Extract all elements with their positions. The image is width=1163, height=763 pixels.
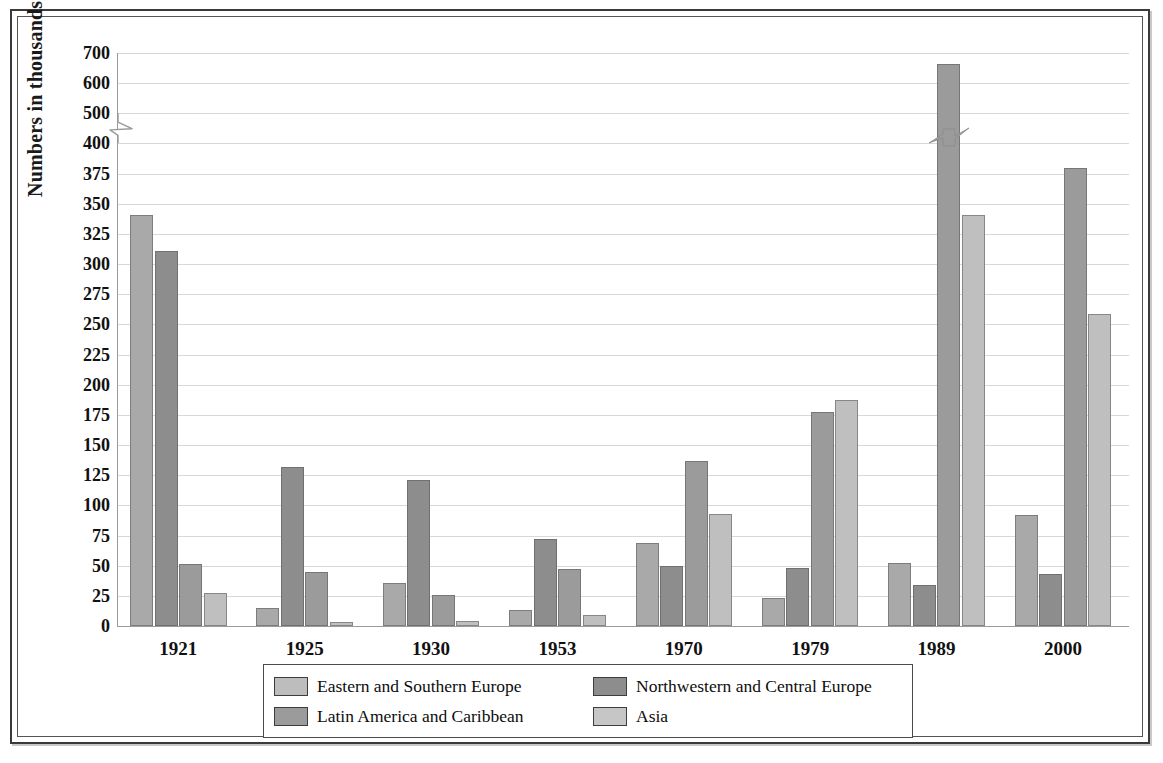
outer-frame: Numbers in thousands 0255075100125150175…	[10, 9, 1150, 744]
y-tick-label: 250	[50, 314, 110, 335]
bar	[558, 569, 581, 626]
y-tick-label: 100	[50, 495, 110, 516]
bar	[811, 412, 834, 626]
bar	[937, 64, 960, 626]
bar-group	[876, 53, 1002, 626]
y-tick-label: 150	[50, 435, 110, 456]
y-axis-label: Numbers in thousands	[24, 0, 47, 197]
y-tick-label: 125	[50, 465, 110, 486]
bar	[660, 566, 683, 626]
y-tick-label: 400	[50, 133, 110, 154]
bar	[583, 615, 606, 626]
inner-frame: Numbers in thousands 0255075100125150175…	[17, 16, 1143, 737]
legend-label: Northwestern and Central Europe	[636, 676, 872, 697]
y-tick-label: 375	[50, 163, 110, 184]
bar	[407, 480, 430, 626]
bar	[962, 215, 985, 626]
bar	[204, 593, 227, 626]
chart-page: Numbers in thousands 0255075100125150175…	[0, 0, 1163, 763]
bar-group	[624, 53, 750, 626]
gridline	[118, 626, 1129, 627]
legend-swatch-icon	[593, 677, 627, 696]
bar-group	[371, 53, 497, 626]
bar	[305, 572, 328, 626]
legend-label: Latin America and Caribbean	[317, 706, 524, 727]
bar-group	[750, 53, 876, 626]
x-tick-label: 2000	[1044, 638, 1082, 660]
y-tick-label: 175	[50, 404, 110, 425]
legend-swatch-icon	[274, 707, 308, 726]
legend-swatch-icon	[593, 707, 627, 726]
plot-area: 0255075100125150175200225250275300325350…	[117, 53, 1129, 627]
bar	[256, 608, 279, 626]
bar-break-zigzag	[929, 127, 969, 153]
legend-swatch-icon	[274, 677, 308, 696]
bar	[709, 514, 732, 626]
legend-label: Asia	[636, 706, 668, 727]
bar	[456, 621, 479, 626]
x-tick-label: 1970	[665, 638, 703, 660]
y-tick-label: 275	[50, 284, 110, 305]
bar	[1015, 515, 1038, 626]
x-tick-label: 1921	[159, 638, 197, 660]
bar	[913, 585, 936, 626]
bar	[1064, 168, 1087, 626]
chart-legend: Eastern and Southern EuropeNorthwestern …	[263, 664, 913, 738]
bar	[155, 251, 178, 626]
y-tick-label: 600	[50, 73, 110, 94]
bar	[509, 610, 532, 626]
y-tick-label: 300	[50, 254, 110, 275]
y-tick-label: 75	[50, 525, 110, 546]
bar	[835, 400, 858, 626]
legend-label: Eastern and Southern Europe	[317, 676, 522, 697]
bar	[432, 595, 455, 626]
bar-group	[497, 53, 623, 626]
y-tick-label: 700	[50, 43, 110, 64]
bar	[330, 622, 353, 626]
bar	[888, 563, 911, 626]
x-tick-label: 1925	[286, 638, 324, 660]
bar	[762, 598, 785, 626]
bar	[281, 467, 304, 626]
legend-item[interactable]: Asia	[593, 703, 906, 732]
y-tick-label: 500	[50, 103, 110, 124]
x-tick-label: 1989	[918, 638, 956, 660]
legend-item[interactable]: Eastern and Southern Europe	[274, 672, 587, 701]
bar-group	[118, 53, 244, 626]
bar-chart: Numbers in thousands 0255075100125150175…	[18, 17, 1142, 736]
legend-grid: Eastern and Southern EuropeNorthwestern …	[274, 672, 906, 731]
y-tick-label: 350	[50, 193, 110, 214]
bar	[179, 564, 202, 626]
y-tick-label: 200	[50, 374, 110, 395]
x-tick-label: 1979	[791, 638, 829, 660]
bar	[1039, 574, 1062, 626]
x-tick-label: 1930	[412, 638, 450, 660]
bar	[383, 583, 406, 626]
bar-group	[1003, 53, 1129, 626]
legend-item[interactable]: Latin America and Caribbean	[274, 703, 587, 732]
bar	[130, 215, 153, 626]
y-tick-label: 325	[50, 223, 110, 244]
y-tick-label: 25	[50, 585, 110, 606]
y-tick-label: 225	[50, 344, 110, 365]
legend-item[interactable]: Northwestern and Central Europe	[593, 672, 906, 701]
bar	[534, 539, 557, 626]
bar-group	[244, 53, 370, 626]
x-tick-label: 1953	[538, 638, 576, 660]
bar	[685, 461, 708, 626]
y-tick-label: 50	[50, 555, 110, 576]
bar	[1088, 314, 1111, 626]
y-tick-label: 0	[50, 616, 110, 637]
bar	[786, 568, 809, 626]
bar	[636, 543, 659, 626]
